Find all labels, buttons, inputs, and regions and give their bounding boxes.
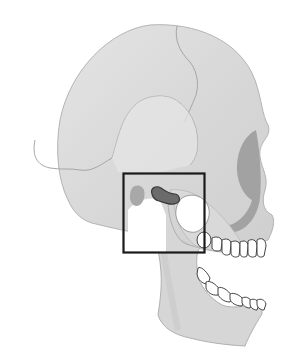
skull-illustration [0,0,299,360]
glenoid-fossa [128,198,166,252]
